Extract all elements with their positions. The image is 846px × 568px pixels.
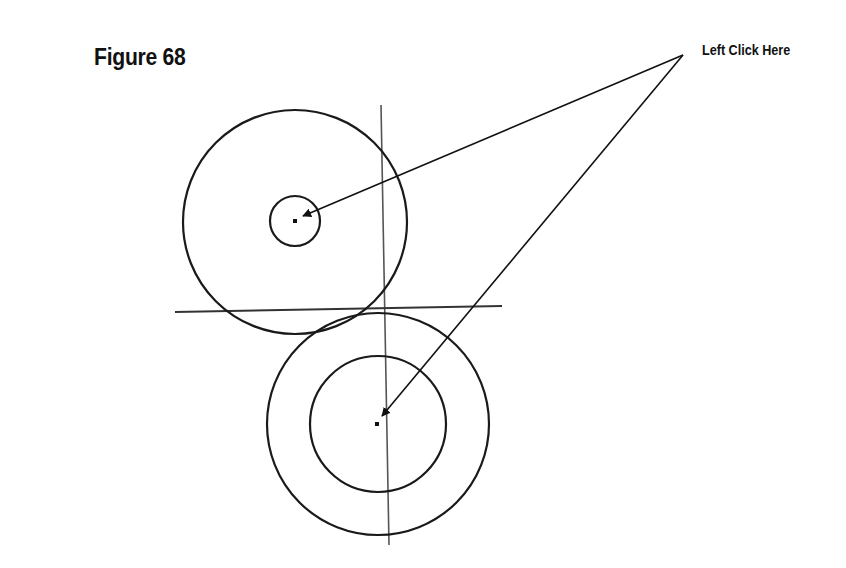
upper-center-point[interactable] (293, 219, 297, 223)
vertical-construction-line[interactable] (381, 105, 389, 545)
lower-center-point[interactable] (375, 422, 379, 426)
callout-arrow-lower (382, 55, 683, 416)
callout-arrow-upper (303, 55, 683, 216)
cad-drawing (0, 0, 846, 568)
